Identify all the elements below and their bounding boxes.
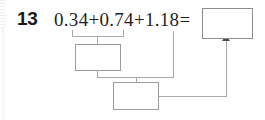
worksheet-problem: 13 0.34+0.74+1.18= [0, 0, 265, 120]
answer-riser-connector [226, 41, 227, 97]
term-1-18-connector [173, 31, 174, 77]
answer-box[interactable] [202, 8, 253, 39]
bracket-span-line [72, 36, 124, 37]
partial-sum-box[interactable] [75, 44, 121, 71]
math-expression: 0.34+0.74+1.18= [54, 10, 190, 30]
bracket-right-tick [123, 30, 124, 37]
problem-number: 13 [17, 9, 38, 29]
page-edge-speckle [0, 0, 6, 28]
total-sum-box[interactable] [113, 82, 159, 110]
answer-rail-connector [158, 96, 227, 97]
